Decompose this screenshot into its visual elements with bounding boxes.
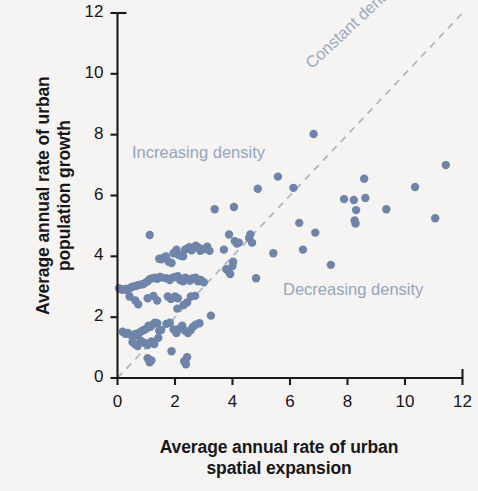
data-point [200,278,208,286]
data-point [230,203,238,211]
data-point [225,230,233,238]
data-point [361,194,369,202]
x-tick-label: 10 [385,392,425,412]
x-tick-label: 0 [98,392,138,412]
x-tick-label: 4 [213,392,253,412]
y-tick-label: 10 [60,63,104,83]
data-point [269,249,277,257]
data-point [360,175,368,183]
x-tick-label: 8 [328,392,368,412]
data-point [246,230,254,238]
data-point [327,261,335,269]
data-point [167,347,175,355]
x-tick-label: 2 [155,392,195,412]
x-tick-label: 12 [443,392,478,412]
y-tick-label: 12 [60,2,104,22]
data-point [205,247,213,255]
x-axis-title: Average annual rate of urban spatial exp… [89,437,469,478]
data-point [352,206,360,214]
data-point [153,296,161,304]
data-point [309,130,317,138]
data-point [252,274,260,282]
data-point [274,172,282,180]
data-point [299,245,307,253]
data-point [235,238,243,246]
data-point [174,294,182,302]
y-tick-label: 0 [60,367,104,387]
data-point [147,356,155,364]
data-point [311,228,319,236]
data-point [442,161,450,169]
data-point [207,311,215,319]
data-point [351,219,359,227]
data-point [229,258,237,266]
data-point [134,300,142,308]
data-point [289,184,297,192]
data-point [350,196,358,204]
data-point [195,319,203,327]
data-point [146,231,154,239]
data-point [340,195,348,203]
data-point [191,292,199,300]
data-point [220,245,228,253]
data-point [167,259,175,267]
data-point [248,238,256,246]
x-tick-label: 6 [270,392,310,412]
annotation-decreasing-density: Decreasing density [283,280,423,299]
data-point [154,334,162,342]
data-points-group [115,130,450,369]
data-point [183,353,191,361]
annotation-increasing-density: Increasing density [132,143,265,162]
y-tick-label: 2 [60,306,104,326]
data-point [382,205,390,213]
data-point [182,360,190,368]
scatter-plot-figure: Increasing density Decreasing density Co… [0,0,478,491]
data-point [411,183,419,191]
data-point [254,185,262,193]
data-point [226,270,234,278]
data-point [431,214,439,222]
data-point [295,219,303,227]
y-tick-label: 4 [60,245,104,265]
data-point [173,304,181,312]
data-point [210,205,218,213]
y-tick-label: 6 [60,185,104,205]
y-tick-label: 8 [60,124,104,144]
